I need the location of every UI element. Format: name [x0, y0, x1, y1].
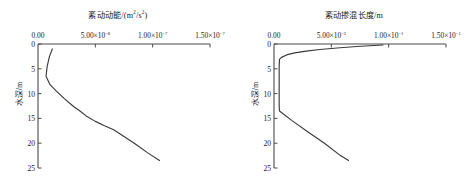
chart-title-tke-end: ) [145, 11, 148, 20]
x-tick-label-tke-2: 1.00×10−7 [138, 31, 167, 40]
y-tick-label-tke-1: 5 [21, 64, 35, 73]
x-tick-label-mixing-length-2: 1.00×10−1 [374, 31, 403, 40]
y-tick-label-mixing-length-2: 10 [257, 89, 271, 98]
plot-svg-tke [38, 44, 210, 168]
y-tick-label-tke-5: 25 [21, 164, 35, 173]
data-line-mixing-length [279, 45, 383, 161]
x-tick-label-mixing-length-1: 5.00×10−2 [317, 31, 346, 40]
figure-container: 紊动动能/(m2/s2) 水深/m 0.005.00×10−81.00×10−7… [0, 0, 473, 188]
chart-title-mixing-length: 紊动掺混长度/m [236, 8, 472, 20]
x-tick-label-tke-1: 5.00×10−8 [81, 31, 110, 40]
chart-title-mixing-length-text: 紊动掺混长度/m [325, 11, 383, 20]
plot-svg-mixing-length [274, 44, 446, 168]
y-tick-label-mixing-length-3: 15 [257, 114, 271, 123]
y-tick-label-tke-2: 10 [21, 89, 35, 98]
chart-panel-mixing-length: 紊动掺混长度/m 水深/m 0.005.00×10−21.00×10−11.50… [236, 0, 472, 188]
y-tick-label-mixing-length-5: 25 [257, 164, 271, 173]
y-tick-label-mixing-length-1: 5 [257, 64, 271, 73]
data-line-tke [46, 49, 160, 161]
y-tick-label-tke-4: 20 [21, 139, 35, 148]
y-tick-label-mixing-length-4: 20 [257, 139, 271, 148]
y-tick-label-mixing-length-0: 0 [257, 40, 271, 49]
chart-panel-tke: 紊动动能/(m2/s2) 水深/m 0.005.00×10−81.00×10−7… [0, 0, 236, 188]
plot-area-tke: 0.005.00×10−81.00×10−71.50×10−7 05101520… [38, 44, 210, 168]
chart-title-tke-text: 紊动动能/(m [88, 11, 133, 20]
x-tick-label-mixing-length-3: 1.50×10−1 [431, 31, 460, 40]
axes-tke [38, 44, 210, 168]
plot-area-mixing-length: 0.005.00×10−21.00×10−11.50×10−1 05101520… [274, 44, 446, 168]
y-tick-label-tke-0: 0 [21, 40, 35, 49]
y-tick-label-tke-3: 15 [21, 114, 35, 123]
axes-mixing-length [274, 44, 446, 168]
x-tick-label-tke-3: 1.50×10−7 [195, 31, 224, 40]
chart-title-tke: 紊动动能/(m2/s2) [0, 8, 236, 20]
